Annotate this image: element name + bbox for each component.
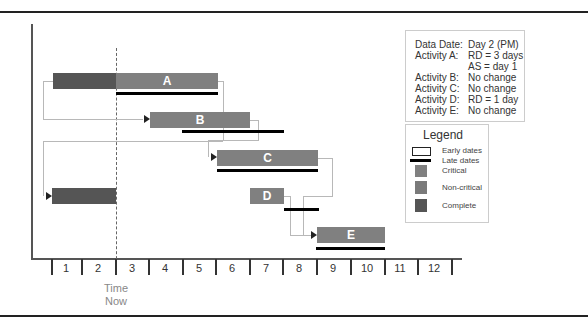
activity-b-late-bar — [182, 130, 284, 133]
connector-long-top — [43, 141, 223, 142]
activity-a-bar: A — [116, 73, 218, 89]
connector-d-down — [290, 196, 291, 235]
legend-label-late: Late dates — [442, 156, 479, 165]
activity-a-late-bar — [116, 92, 218, 95]
day-label: 2 — [83, 262, 113, 274]
info-key: Activity D: — [415, 94, 468, 105]
day-label: 11 — [385, 262, 415, 274]
info-row: Activity B:No change — [415, 72, 523, 83]
day-label: 7 — [251, 262, 281, 274]
activity-d-label: D — [263, 189, 272, 203]
legend-label-early: Early dates — [442, 146, 482, 155]
legend-label-non-critical: Non-critical — [442, 183, 482, 192]
day-label: 3 — [117, 262, 147, 274]
connector-b-right — [250, 120, 258, 121]
legend-title: Legend — [423, 128, 463, 142]
info-value: RD = 1 day — [468, 94, 518, 105]
legend-box: Legend Early dates Late dates Critical N… — [405, 124, 489, 223]
activity-d-late-bar — [284, 208, 319, 211]
info-key: Activity B: — [415, 72, 468, 83]
connector-c-down — [332, 158, 333, 196]
day-label: 6 — [217, 262, 247, 274]
connector-a-left-stub — [43, 81, 53, 82]
day-label: 12 — [419, 262, 449, 274]
time-now-label: Time Now — [96, 282, 136, 308]
day-label: 4 — [150, 262, 180, 274]
info-row: Activity E:No change — [415, 105, 523, 116]
activity-e-bar: E — [317, 227, 385, 243]
connector-c-to-e — [303, 196, 304, 235]
day-label: 1 — [51, 262, 81, 274]
day-label: 5 — [184, 262, 214, 274]
top-border — [0, 11, 588, 13]
complete-swatch-icon — [415, 199, 427, 212]
time-now-label-line1: Time — [96, 282, 136, 295]
info-row: AS = day 1 — [415, 61, 523, 72]
info-value: AS = day 1 — [468, 61, 517, 72]
early-dates-swatch-icon — [412, 147, 431, 156]
non-critical-swatch-icon — [415, 181, 427, 194]
time-now-label-line2: Now — [96, 295, 136, 308]
connector-to-complete — [43, 141, 44, 196]
completed-activity-bar — [52, 188, 116, 204]
info-value: No change — [468, 83, 516, 94]
info-row: Activity C:No change — [415, 83, 523, 94]
info-key: Activity E: — [415, 105, 468, 116]
connector-c-right — [318, 158, 332, 159]
activity-a-label: A — [163, 74, 172, 88]
info-value: RD = 3 days — [468, 50, 523, 61]
activity-b-bar: B — [150, 112, 250, 128]
activity-c-label: C — [263, 151, 272, 165]
activity-c-bar: C — [217, 150, 318, 166]
day-label: 8 — [284, 262, 314, 274]
axis-tick — [451, 259, 453, 275]
connector-to-b — [43, 119, 143, 120]
info-row: Data Date:Day 2 (PM) — [415, 39, 523, 50]
bottom-border — [0, 315, 588, 317]
info-row: Activity A:RD = 3 days — [415, 50, 523, 61]
activity-d-bar: D — [250, 188, 284, 204]
info-key — [415, 61, 468, 72]
info-value: No change — [468, 105, 516, 116]
legend-label-complete: Complete — [442, 201, 476, 210]
y-axis-line — [31, 24, 33, 259]
activity-e-label: E — [347, 228, 355, 242]
connector-a-b-left — [43, 81, 44, 119]
activity-a-complete-bar — [53, 73, 116, 89]
data-date-box: Data Date:Day 2 (PM) Activity A:RD = 3 d… — [405, 30, 525, 122]
connector-c-join — [303, 196, 333, 197]
connector-to-c-down — [208, 140, 209, 157]
info-value: Day 2 (PM) — [468, 39, 519, 50]
legend-label-critical: Critical — [442, 166, 466, 175]
activity-e-late-bar — [316, 247, 385, 250]
day-label: 10 — [352, 262, 382, 274]
critical-swatch-icon — [415, 165, 427, 177]
day-label: 9 — [318, 262, 348, 274]
info-key: Data Date: — [415, 39, 468, 50]
late-dates-swatch-icon — [410, 159, 431, 162]
info-key: Activity A: — [415, 50, 468, 61]
info-value: No change — [468, 72, 516, 83]
x-axis-line — [31, 258, 462, 260]
info-row: Activity D:RD = 1 day — [415, 94, 523, 105]
connector-to-e — [290, 235, 312, 236]
activity-b-label: B — [196, 113, 205, 127]
info-key: Activity C: — [415, 83, 468, 94]
activity-c-late-bar — [217, 169, 318, 172]
